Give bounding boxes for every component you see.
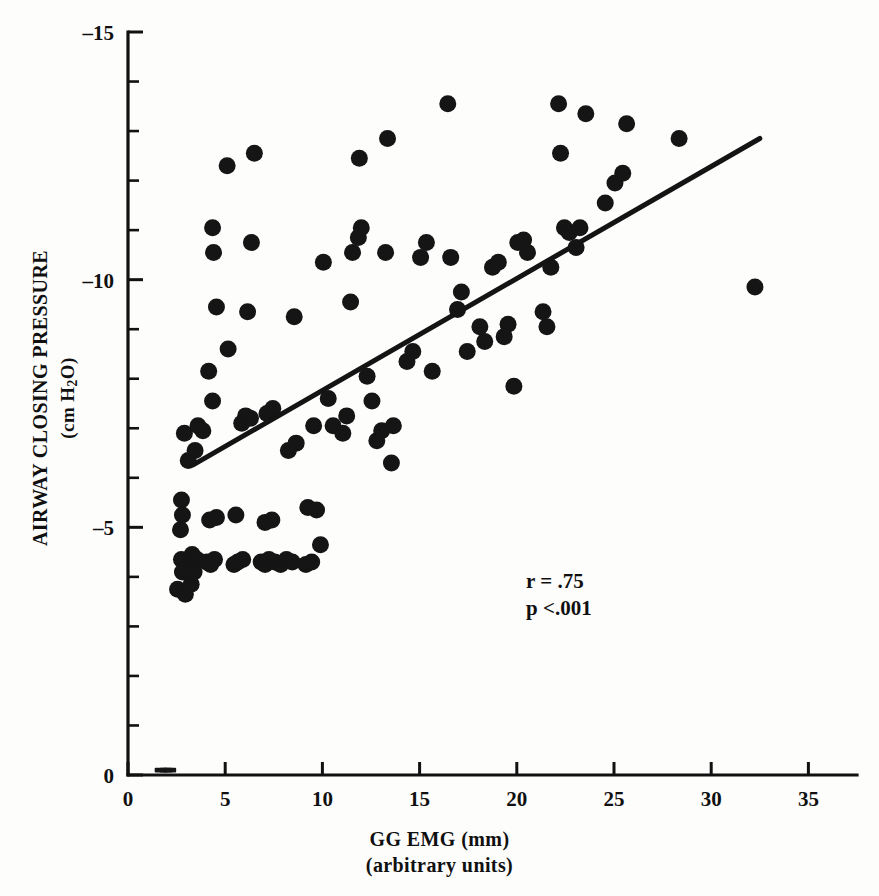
data-point (334, 425, 351, 442)
data-point (208, 298, 225, 315)
data-point (459, 343, 476, 360)
data-point (353, 219, 370, 236)
p-value: p <.001 (526, 595, 592, 622)
data-point (338, 407, 355, 424)
regression-line-group (193, 138, 760, 464)
data-point (618, 115, 635, 132)
data-point (442, 249, 459, 266)
x-axis-title: GG EMG (mm) (arbitrary units) (0, 826, 879, 878)
data-point (418, 234, 435, 251)
data-point (571, 219, 588, 236)
data-point (174, 506, 191, 523)
y-axis-units-post: O) (57, 357, 78, 379)
data-point (550, 95, 567, 112)
y-tick-label-3: 0 (104, 764, 115, 788)
data-point (308, 501, 325, 518)
data-point (194, 422, 211, 439)
data-point (490, 254, 507, 271)
regression-line (193, 138, 760, 464)
tick-labels-group: –15–10–5005101520253035 (82, 21, 819, 811)
y-axis-title-line2: (cm H2O) (54, 48, 86, 748)
x-tick-label-7: 35 (798, 787, 819, 811)
scatter-plot-svg: –15–10–5005101520253035 (0, 0, 879, 896)
data-point (303, 554, 320, 571)
y-tick-label-2: –5 (92, 516, 114, 540)
x-tick-label-5: 25 (604, 787, 625, 811)
data-point (243, 234, 260, 251)
data-point (205, 244, 222, 261)
data-point (204, 219, 221, 236)
data-point (263, 511, 280, 528)
x-tick-label-1: 5 (220, 787, 231, 811)
x-tick-label-4: 20 (506, 787, 527, 811)
data-point (538, 318, 555, 335)
x-axis-title-line1: GG EMG (mm) (370, 828, 510, 850)
data-point (363, 393, 380, 410)
x-tick-label-0: 0 (123, 787, 134, 811)
data-point (500, 316, 517, 333)
data-point (204, 393, 221, 410)
data-point (505, 378, 522, 395)
data-point (200, 363, 217, 380)
data-point (453, 284, 470, 301)
x-tick-label-6: 30 (701, 787, 722, 811)
x-axis-title-line2: (arbitrary units) (0, 852, 879, 878)
data-point (746, 279, 763, 296)
figure-container: –15–10–5005101520253035 AIRWAY CLOSING P… (0, 0, 879, 896)
data-point (187, 442, 204, 459)
data-point (404, 343, 421, 360)
y-axis-title-line1: AIRWAY CLOSING PRESSURE (29, 250, 51, 546)
ticks-group (128, 32, 808, 775)
x-tick-label-3: 15 (409, 787, 430, 811)
data-point (552, 145, 569, 162)
data-point (671, 130, 688, 147)
data-point (315, 254, 332, 271)
data-point (439, 95, 456, 112)
data-point (597, 194, 614, 211)
data-point (208, 509, 225, 526)
data-point (614, 165, 631, 182)
data-point (351, 150, 368, 167)
data-point (377, 244, 394, 261)
data-point (239, 303, 256, 320)
y-axis-title-wrap: AIRWAY CLOSING PRESSURE (cm H2O) (27, 48, 87, 748)
data-point (227, 506, 244, 523)
data-point (172, 521, 189, 538)
data-point (163, 768, 176, 773)
data-point (519, 244, 536, 261)
data-point (424, 363, 441, 380)
y-axis-title: AIRWAY CLOSING PRESSURE (cm H2O) (27, 48, 86, 748)
data-point (476, 333, 493, 350)
statistics-annotation: r = .75 p <.001 (526, 568, 592, 622)
y-tick-label-0: –15 (82, 21, 115, 45)
correlation-value: r = .75 (526, 568, 592, 595)
y-axis-units-subscript: 2 (65, 379, 80, 386)
data-point (219, 157, 236, 174)
data-point (577, 105, 594, 122)
data-point (246, 145, 263, 162)
data-point (206, 551, 223, 568)
data-point (471, 318, 488, 335)
data-point (312, 536, 329, 553)
data-point (342, 293, 359, 310)
data-point (412, 249, 429, 266)
data-point (286, 308, 303, 325)
data-point (234, 551, 251, 568)
data-point (220, 341, 237, 358)
data-point (379, 130, 396, 147)
data-point (173, 492, 190, 509)
data-point (344, 244, 361, 261)
data-point (383, 454, 400, 471)
data-point (242, 410, 259, 427)
data-point (288, 435, 305, 452)
x-tick-label-2: 10 (312, 787, 333, 811)
y-axis-units-pre: (cm H (57, 387, 78, 439)
data-point (305, 417, 322, 434)
data-point (535, 303, 552, 320)
data-point (385, 417, 402, 434)
